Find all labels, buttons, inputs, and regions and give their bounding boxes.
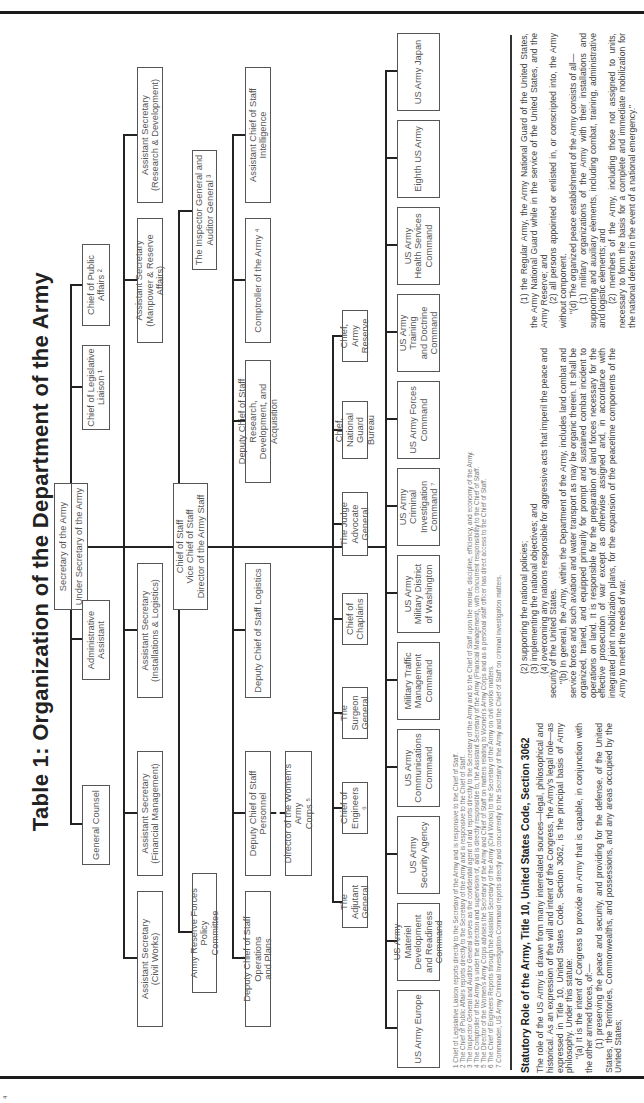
statute-paragraph: "(a) It is the intent of Congress to pro…	[575, 723, 595, 1073]
org-box-dcs-research-development-acquisition[interactable]: Deputy Chief of Staff Research, Developm…	[245, 360, 271, 483]
org-box-chief-of-staff[interactable]: Chief of Staff Vice Chief of Staff Direc…	[173, 483, 208, 610]
stub-line	[385, 70, 397, 72]
org-box-command[interactable]: US Army Criminal Investigation Command ⁷	[397, 468, 440, 546]
row-b-bus-line	[123, 134, 125, 959]
org-box-comptroller[interactable]: Comptroller of the Army ⁴	[245, 218, 271, 343]
org-box-command[interactable]: US Army Europe	[397, 990, 440, 1068]
stub-line	[385, 853, 397, 855]
stub-line	[232, 812, 245, 814]
statute-paragraph: The role of the US Army is drawn from ma…	[536, 723, 575, 1073]
footnote: 4 The Comptroller of the Army is under t…	[473, 308, 480, 1068]
page-number: 4	[2, 1096, 8, 1099]
org-box-inspector-general[interactable]: The Inspector General and Auditor Genera…	[192, 150, 217, 270]
statute-paragraph: (1) the Regular Army, the Army National …	[520, 33, 549, 328]
footnote: 5 The Director of the Women's Army Corps…	[480, 308, 487, 1068]
statute-paragraph: (2) all persons appointed or enlisted in…	[549, 33, 569, 328]
stub-line	[70, 386, 82, 388]
section-divider	[510, 35, 512, 1070]
stub-line	[123, 629, 137, 631]
row-e-bus-line	[385, 72, 387, 1029]
org-box-chief-of-chaplains[interactable]: Chief of Chaplains	[342, 593, 368, 645]
org-box-as-financial-management[interactable]: Assistant Secretary (Financial Managemen…	[137, 751, 163, 876]
org-box-dcs-logistics[interactable]: Deputy Chief of Staff Logistics	[245, 563, 271, 698]
footnote: 7 Commander, US Army Criminal Investigat…	[495, 308, 502, 1068]
stub-line	[178, 210, 192, 212]
stub-line	[332, 618, 342, 620]
statute-heading: Statutory Role of the Army, Title 10, Un…	[520, 723, 531, 1073]
org-box-reserve-forces-policy-committee[interactable]: Army Reserve Forces Policy Committee	[192, 873, 217, 993]
org-box-as-manpower-reserve[interactable]: Assistant Secretary (Manpower & Reserve …	[137, 218, 163, 343]
org-box-command[interactable]: Military Traffic Management Command	[397, 642, 440, 720]
org-box-as-installations-logistics[interactable]: Assistant Secretary (Installations & Log…	[137, 563, 163, 698]
secretary-of-the-army-label: Secretary of the Army	[55, 484, 71, 609]
stub-line	[123, 812, 137, 814]
org-box-dcs-personnel[interactable]: Deputy Chief of Staff Personnel	[245, 751, 271, 876]
stub-line	[385, 331, 397, 333]
right-page-rule	[0, 11, 644, 14]
org-box-director-wac[interactable]: Director of the Women's Army Corps ⁵	[285, 751, 312, 876]
row-c-bus-line	[232, 134, 234, 959]
footnote: 6 The Chief of Engineers Reports through…	[487, 308, 494, 1068]
org-box-administrative-assistant[interactable]: Administrative Assistant	[82, 600, 110, 680]
org-box-acs-intelligence[interactable]: Assistant Chief of Staff Intelligence	[245, 67, 271, 203]
left-page-rule	[0, 1076, 644, 1079]
org-box-command[interactable]: Eighth US Army	[397, 120, 440, 198]
secretary-box[interactable]: Secretary of the Army Under Secretary of…	[54, 483, 88, 610]
stub-line	[123, 957, 137, 959]
stub-line	[70, 823, 82, 825]
org-box-as-civil-works[interactable]: Assistant Secretary (Civil Works)	[137, 891, 163, 1027]
org-box-command[interactable]: US Army Japan	[397, 33, 440, 111]
org-box-dcs-operations[interactable]: Deputy Chief of Staff Operations and Pla…	[245, 891, 271, 1027]
org-box-command[interactable]: US Army Military District of Washington	[397, 555, 440, 633]
stub-line	[385, 418, 397, 420]
footnotes: 1 Chief of Legislative Liaison reports d…	[452, 308, 502, 1068]
org-box-surgeon-general[interactable]: The Surgeon General	[342, 687, 368, 739]
org-box-public-affairs[interactable]: Chief of Public Affairs ²	[82, 244, 110, 326]
org-box-general-counsel[interactable]: General Counsel	[82, 785, 110, 865]
org-box-chief-of-engineers[interactable]: Chief of Engineers ⁶	[342, 782, 368, 834]
org-box-command[interactable]: US Army Security Agency	[397, 816, 440, 894]
stub-line	[70, 284, 82, 286]
statute-paragraph: "(b) In general, the Army, within the De…	[559, 348, 628, 698]
stub-line	[385, 1027, 397, 1029]
rotated-document-page: 4 Table 1: Organization of the Departmen…	[0, 0, 644, 1103]
org-box-command[interactable]: US Army Materiel Development and Readine…	[397, 903, 440, 981]
stub-line	[70, 638, 82, 640]
footnote: 2 The Chief of Public Affairs reports di…	[459, 308, 466, 1068]
stub-line	[232, 134, 245, 136]
stub-line	[385, 505, 397, 507]
stub-line	[385, 592, 397, 594]
statute-paragraph: (1) military organizations of the Army w…	[579, 33, 608, 328]
org-box-command[interactable]: US Army Communications Command	[397, 729, 440, 807]
statute-paragraph: (4) overcoming any nations responsible f…	[540, 348, 560, 698]
stub-line	[232, 279, 245, 281]
stub-line	[385, 244, 397, 246]
page-title: Table 1: Organization of the Department …	[28, 0, 54, 1103]
stub-line	[385, 679, 397, 681]
footnote: 1 Chief of Legislative Liaison reports d…	[452, 308, 459, 1068]
org-box-judge-advocate-general[interactable]: The Judge Advocate General	[342, 492, 368, 556]
statute-paragraph: (1) preserving the peace and security, a…	[595, 723, 624, 1073]
org-box-as-research-development[interactable]: Assistant Secretary (Research & Developm…	[137, 67, 163, 203]
statute-column-3: (1) the Regular Army, the Army National …	[520, 33, 638, 328]
org-box-adjutant-general[interactable]: The Adjutant General	[342, 876, 368, 928]
footnote: 3 The Inspector General and Auditor Gene…	[466, 308, 473, 1068]
stub-line	[232, 629, 245, 631]
under-secretary-label: Under Secretary of the Army	[71, 484, 88, 609]
statute-paragraph: (2) members of the Army, including those…	[608, 33, 637, 328]
stub-line	[123, 134, 137, 136]
org-box-army-reserve[interactable]: Chief, Army Reserve	[342, 310, 368, 362]
org-box-national-guard-bureau[interactable]: Chief, National Guard Bureau	[342, 401, 368, 459]
stub-line	[385, 766, 397, 768]
statute-column-2: (2) supporting the national policies; (3…	[520, 348, 628, 698]
org-box-command[interactable]: US Army Forces Command	[397, 381, 440, 459]
org-box-command[interactable]: US Army Health Services Command	[397, 207, 440, 285]
statute-column-1: Statutory Role of the Army, Title 10, Un…	[520, 723, 624, 1073]
org-box-command[interactable]: US Army Training and Doctrine Command	[397, 294, 440, 372]
org-box-legislative-liaison[interactable]: Chief of Legislative Liaison ¹	[82, 345, 110, 430]
stub-line	[385, 157, 397, 159]
